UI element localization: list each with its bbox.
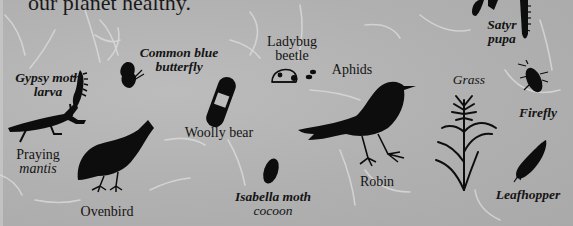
firefly-label: Firefly <box>516 106 560 120</box>
leafhopper-icon <box>512 138 550 184</box>
grass-icon <box>434 92 500 192</box>
grass-label: Grass <box>448 73 490 87</box>
woolly-bear-icon <box>204 74 238 130</box>
headline-text: our planet healthy. <box>28 0 191 16</box>
praying-mantis-icon <box>6 98 86 144</box>
ladybug-beetle-label: Ladybug beetle <box>262 35 322 63</box>
firefly-icon <box>514 60 550 98</box>
ovenbird-icon <box>76 118 160 194</box>
ovenbird-label: Ovenbird <box>74 205 140 219</box>
food-web-illustration: our planet healthy. Gypsy moth larva Pra… <box>0 0 573 226</box>
praying-mantis-label: Praying mantis <box>6 148 70 176</box>
common-blue-butterfly-label: Common blue butterfly <box>134 46 224 74</box>
robin-label: Robin <box>354 175 400 189</box>
isabella-moth-cocoon-label: Isabella moth cocoon <box>228 190 318 218</box>
robin-icon <box>296 78 416 168</box>
gypsy-moth-larva-label: Gypsy moth larva <box>2 71 94 99</box>
isabella-moth-cocoon-icon <box>259 156 283 186</box>
leafhopper-label: Leafhopper <box>492 188 564 202</box>
woolly-bear-label: Woolly bear <box>180 126 258 140</box>
aphids-label: Aphids <box>328 63 376 77</box>
satyr-pupa-label: Satyr pupa <box>482 18 522 46</box>
